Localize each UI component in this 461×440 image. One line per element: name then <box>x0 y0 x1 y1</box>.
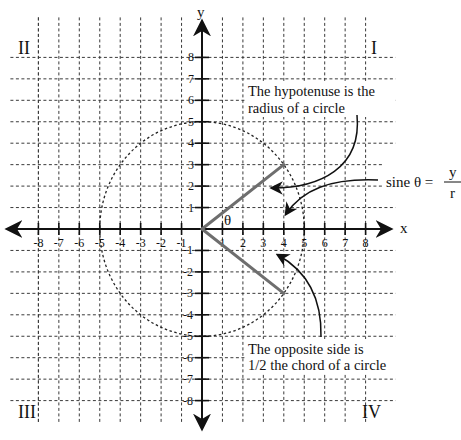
x-tick-label: 5 <box>301 236 307 250</box>
y-tick-label: -7 <box>183 372 193 386</box>
x-tick-label: -2 <box>156 236 166 250</box>
y-tick-label: 6 <box>188 93 194 107</box>
hypotenuse-note-line-1: The hypotenuse is the <box>248 83 375 99</box>
y-tick-label: -1 <box>183 243 193 257</box>
quadrant-label-IV: IV <box>362 402 381 422</box>
sine-formula: sine θ = y r <box>286 160 461 214</box>
x-tick-label: -4 <box>115 236 125 250</box>
angle-theta-label: θ <box>224 212 231 228</box>
y-tick-label: -4 <box>183 308 193 322</box>
y-tick-label: 1 <box>188 201 194 215</box>
y-axis-label: y <box>197 4 205 20</box>
x-tick-label: 4 <box>281 236 287 250</box>
hypotenuse-note-line-2: radius of a circle <box>248 100 345 116</box>
opposite-callout-arrow <box>278 255 321 337</box>
quadrant-label-II: II <box>18 38 30 58</box>
y-tick-label: -5 <box>183 329 193 343</box>
x-tick-label: 7 <box>342 236 348 250</box>
x-tick-label: -6 <box>74 236 84 250</box>
opposite-note-line-2: 1/2 the chord of a circle <box>248 357 386 373</box>
y-tick-label: -8 <box>183 394 193 408</box>
y-tick-label: 7 <box>188 72 194 86</box>
x-tick-label: 8 <box>363 236 369 250</box>
hypotenuse-callout-arrow <box>272 115 357 188</box>
y-tick-label: -2 <box>183 265 193 279</box>
y-tick-label: -6 <box>183 351 193 365</box>
formula-numerator: y <box>449 164 457 180</box>
y-tick-label: -3 <box>183 286 193 300</box>
hypotenuse-annotation: The hypotenuse is the radius of a circle <box>246 81 394 188</box>
coordinate-plane-diagram: -8-7-6-5-4-3-2-11234567887654321-1-2-3-4… <box>0 0 461 440</box>
formula-denominator: r <box>450 185 455 201</box>
x-tick-label: -3 <box>136 236 146 250</box>
quadrant-label-I: I <box>371 38 377 58</box>
y-tick-label: 3 <box>188 158 194 172</box>
y-tick-label: 5 <box>188 115 194 129</box>
quadrant-label-III: III <box>18 402 36 422</box>
y-tick-label: 4 <box>188 136 194 150</box>
formula-lhs: sine θ = <box>386 174 433 190</box>
y-tick-label: 2 <box>188 179 194 193</box>
x-tick-label: 6 <box>322 236 328 250</box>
x-tick-label: 3 <box>260 236 266 250</box>
x-axis-label: x <box>400 220 408 236</box>
opposite-note-line-1: The opposite side is <box>248 341 364 357</box>
x-tick-label: -5 <box>95 236 105 250</box>
x-tick-label: 2 <box>240 236 246 250</box>
x-tick-label: -7 <box>54 236 64 250</box>
x-tick-label: -8 <box>33 236 43 250</box>
y-tick-label: 8 <box>188 50 194 64</box>
